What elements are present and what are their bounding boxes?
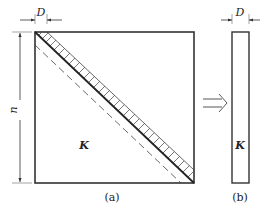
height-dim-label: n: [7, 106, 20, 113]
double-right-arrow-icon: [203, 94, 227, 112]
caption-a: (a): [104, 191, 119, 204]
main-diagonal: [35, 32, 194, 183]
width-dimension-b: D: [221, 6, 260, 24]
matrix-label-a: K: [78, 139, 89, 152]
banded-matrix-diagram: D n K (a) D K (b): [0, 0, 268, 215]
height-dimension: n: [7, 32, 32, 183]
panel-b: D K (b): [221, 6, 260, 204]
caption-b: (b): [232, 191, 248, 204]
width-dimension-a: D: [20, 6, 62, 24]
width-dim-label-b: D: [235, 6, 245, 19]
symmetric-band-dashed: [35, 45, 181, 183]
band-upper-edge: [47, 32, 194, 170]
hatched-band: [30, 22, 212, 184]
matrix-label-b: K: [234, 139, 245, 152]
band-storage-outline: [232, 32, 249, 183]
panel-a: D n K (a): [7, 6, 212, 204]
width-dim-label-a: D: [36, 6, 46, 19]
